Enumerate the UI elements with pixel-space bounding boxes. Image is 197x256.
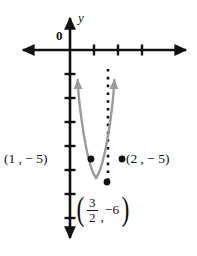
vertex-x-fraction: 3 2 bbox=[87, 196, 98, 224]
parabola-left-branch bbox=[78, 80, 96, 178]
point-label-left: (1 , − 5) bbox=[4, 152, 48, 166]
parabola-right-branch bbox=[96, 80, 114, 178]
graph-figure: y 0 (1 , − 5) (2 , − 5) ( 3 2 , −6 ) bbox=[0, 0, 197, 256]
vertex-separator: , bbox=[101, 210, 104, 225]
vertex-open-paren: ( bbox=[77, 197, 85, 223]
fraction-numerator: 3 bbox=[87, 196, 98, 210]
point-label-right: (2 , − 5) bbox=[126, 152, 170, 166]
y-axis-label: y bbox=[78, 11, 84, 24]
fraction-denominator: 2 bbox=[87, 211, 98, 225]
vertex-close-paren: ) bbox=[122, 197, 130, 223]
point-2-neg5 bbox=[119, 156, 126, 163]
origin-label: 0 bbox=[56, 29, 63, 42]
vertex-y-value: −6 bbox=[105, 203, 119, 217]
point-1-neg5 bbox=[88, 156, 95, 163]
vertex-label: ( 3 2 , −6 ) bbox=[75, 196, 131, 224]
point-vertex bbox=[104, 179, 111, 186]
